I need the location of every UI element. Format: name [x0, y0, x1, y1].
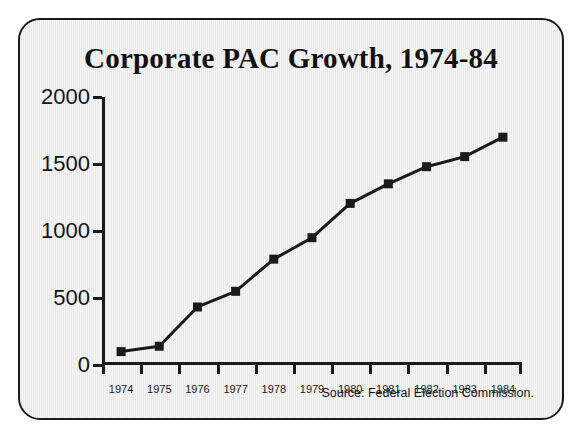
data-point-marker	[460, 152, 469, 161]
data-series-line	[102, 97, 522, 365]
data-point-marker	[155, 342, 164, 351]
x-tick-mark	[484, 365, 487, 374]
x-tick-mark	[369, 365, 372, 374]
y-tick-label: 0	[78, 352, 90, 378]
data-point-marker	[269, 255, 278, 264]
x-tick-mark	[331, 365, 334, 374]
x-tick-mark	[293, 365, 296, 374]
x-tick-mark	[446, 365, 449, 374]
source-note: Source: Federal Election Commission.	[321, 386, 534, 400]
y-tick-mark	[93, 364, 102, 367]
x-tick-label: 1977	[223, 383, 247, 395]
data-point-marker	[117, 347, 126, 356]
data-point-marker	[498, 133, 507, 142]
data-point-marker	[422, 162, 431, 171]
chart-title: Corporate PAC Growth, 1974-84	[20, 42, 562, 75]
x-tick-mark	[519, 365, 522, 374]
y-tick-mark	[93, 96, 102, 99]
x-tick-mark	[407, 365, 410, 374]
data-point-marker	[384, 179, 393, 188]
y-tick-mark	[93, 230, 102, 233]
x-tick-label: 1974	[109, 383, 133, 395]
y-tick-label: 500	[53, 285, 90, 311]
y-tick-mark	[93, 297, 102, 300]
data-point-marker	[346, 199, 355, 208]
plot-area: 0500100015002000 19741975197619771978197…	[102, 97, 522, 365]
x-tick-label: 1978	[262, 383, 286, 395]
x-tick-mark	[255, 365, 258, 374]
y-tick-mark	[93, 163, 102, 166]
x-tick-label: 1975	[147, 383, 171, 395]
y-tick-label: 2000	[41, 84, 90, 110]
x-tick-mark	[140, 365, 143, 374]
data-point-marker	[193, 302, 202, 311]
y-tick-label: 1500	[41, 151, 90, 177]
series-polyline	[121, 137, 503, 351]
y-tick-label: 1000	[41, 218, 90, 244]
data-point-marker	[231, 287, 240, 296]
x-tick-mark	[217, 365, 220, 374]
data-point-marker	[308, 233, 317, 242]
chart-frame: Corporate PAC Growth, 1974-84 0500100015…	[18, 18, 564, 420]
x-tick-mark	[178, 365, 181, 374]
x-tick-label: 1976	[185, 383, 209, 395]
x-tick-mark	[102, 365, 105, 374]
